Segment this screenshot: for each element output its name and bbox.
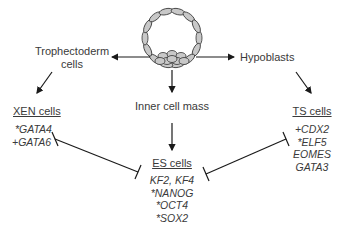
hypoblasts-label: Hypoblasts <box>240 51 294 64</box>
ts-gene: GATA3 <box>284 161 340 174</box>
arrow-hypoblasts-to-ts <box>296 72 311 93</box>
xen-gene: *GATA4 <box>15 123 61 136</box>
blastocyst-icon <box>142 7 202 69</box>
trophectoderm-cell <box>191 19 202 34</box>
trophectoderm-line1: Trophectoderm <box>32 45 112 58</box>
inhibition-xen-es <box>52 132 141 179</box>
inner-cell-mass-cell <box>179 58 189 65</box>
ts-cells-title: TS cells <box>284 105 340 118</box>
inhibition-ts-es <box>203 132 289 181</box>
es-gene: *SOX2 <box>140 212 204 225</box>
arrow-trophectoderm-to-xen <box>37 72 52 93</box>
es-cells-title: ES cells <box>140 157 204 170</box>
icm-label: Inner cell mass <box>122 100 222 113</box>
xen-gene: +GATA6 <box>12 136 61 149</box>
inner-cell-mass-cell <box>167 56 177 63</box>
trophectoderm-line2: cells <box>32 58 112 71</box>
es-cells-block: ES cells KF2, KF4 *NANOG *OCT4 *SOX2 <box>140 157 204 224</box>
trophectoderm-label: Trophectoderm cells <box>32 45 112 71</box>
es-gene: KF2, KF4 <box>140 174 204 187</box>
es-gene: *OCT4 <box>140 199 204 212</box>
ts-cells-block: TS cells +CDX2 *ELF5 EOMES GATA3 <box>284 105 340 173</box>
ts-gene: EOMES <box>284 148 340 161</box>
xen-cells-block: XEN cells *GATA4 +GATA6 <box>12 105 61 148</box>
ts-gene: *ELF5 <box>284 136 340 149</box>
inner-cell-mass-cell <box>155 58 165 65</box>
ts-gene: +CDX2 <box>284 123 340 136</box>
es-gene: *NANOG <box>140 187 204 200</box>
xen-cells-title: XEN cells <box>13 105 61 118</box>
